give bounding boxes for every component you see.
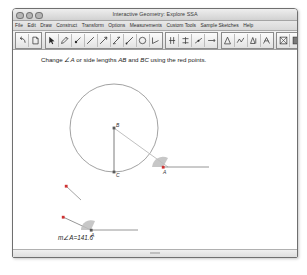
toolbar-group-history <box>15 32 42 49</box>
point-drag-handle[interactable] <box>65 185 68 188</box>
menu-item-options[interactable]: Options <box>108 21 125 30</box>
ray-icon[interactable] <box>98 34 111 47</box>
menu-item-draw[interactable]: Draw <box>40 21 51 30</box>
resize-grip[interactable] <box>150 252 160 254</box>
line-icon[interactable] <box>111 34 124 47</box>
menu-bar: File Edit Draw Construct Transform Optio… <box>13 21 297 31</box>
vector-icon[interactable] <box>124 34 137 47</box>
menu-item-construct[interactable]: Construct <box>56 21 77 30</box>
toolbar-group-transform <box>221 32 274 49</box>
perpendicular-icon[interactable] <box>179 34 192 47</box>
title-bar[interactable]: Interactive Geometry: Explore SSA <box>13 9 297 21</box>
menu-item-transform[interactable]: Transform <box>82 21 104 30</box>
midpoint-icon[interactable] <box>192 34 205 47</box>
hide-show-icon[interactable] <box>277 34 290 47</box>
translate-icon[interactable] <box>248 34 261 47</box>
arrow-select-icon[interactable] <box>46 34 59 47</box>
segment-icon[interactable] <box>85 34 98 47</box>
label-point-b: B <box>116 122 119 128</box>
point-marker-icon[interactable] <box>72 34 85 47</box>
screenshot-root: Interactive Geometry: Explore SSA File E… <box>0 0 307 275</box>
angle-slider-handle[interactable] <box>62 216 65 219</box>
rotate-icon[interactable] <box>235 34 248 47</box>
application-window: Interactive Geometry: Explore SSA File E… <box>12 8 298 258</box>
redo-page-icon[interactable] <box>29 34 41 47</box>
dilate-icon[interactable] <box>261 34 273 47</box>
point-c[interactable] <box>113 171 116 174</box>
measurement-side-ab[interactable]: AB=18 <box>58 257 77 258</box>
label-point-c: C <box>116 172 120 178</box>
toolbar-group-construct <box>165 32 218 49</box>
measurement-side-ab-label: AB <box>58 257 66 258</box>
window-title: Interactive Geometry: Explore SSA <box>13 11 297 17</box>
sketch-canvas[interactable]: Change ∠A or side lengths AB and BC usin… <box>13 50 297 258</box>
measurement-side-ab-operator: = <box>66 257 70 258</box>
label-point-a: A <box>163 169 166 175</box>
menu-item-sample-sketches[interactable]: Sample Sketches <box>201 21 239 30</box>
toolbar <box>13 31 297 50</box>
angle-icon[interactable] <box>150 34 162 47</box>
angle-slider-arc <box>81 220 95 230</box>
pencil-icon[interactable] <box>59 34 72 47</box>
grid-icon[interactable] <box>290 34 298 47</box>
bisector-icon[interactable] <box>205 34 217 47</box>
segment-drag-handle[interactable] <box>66 186 81 200</box>
geometry-construction[interactable] <box>13 50 295 258</box>
point-b[interactable] <box>113 127 116 130</box>
menu-item-custom-tools[interactable]: Custom Tools <box>167 21 197 30</box>
measurement-angle-a-label: m∠A <box>58 234 73 241</box>
measurement-angle-a[interactable]: m∠A=141.6 <box>58 234 93 241</box>
menu-item-help[interactable]: Help <box>243 21 253 30</box>
parallel-icon[interactable] <box>166 34 179 47</box>
reflect-icon[interactable] <box>222 34 235 47</box>
measurement-angle-a-value: 141.6 <box>77 234 93 241</box>
menu-item-file[interactable]: File <box>15 21 23 30</box>
menu-item-measurements[interactable]: Measurements <box>130 21 162 30</box>
toolbar-group-display <box>276 32 298 49</box>
circle-icon[interactable] <box>137 34 150 47</box>
toolbar-group-drawing <box>45 32 163 49</box>
menu-item-edit[interactable]: Edit <box>27 21 35 30</box>
undo-arrow-icon[interactable] <box>16 34 29 47</box>
window-status-strip <box>13 249 297 257</box>
measurement-side-ab-value: 18 <box>70 257 77 258</box>
